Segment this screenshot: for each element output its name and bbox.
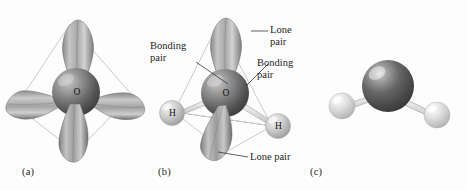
lone-pair-lobe-bottom bbox=[201, 105, 232, 161]
hydrogen-right-label: H bbox=[275, 121, 282, 131]
lone-pair-top-line1: Lone bbox=[270, 24, 292, 35]
panel-a-hybrid-orbitals: O (a) bbox=[0, 0, 155, 190]
oxygen-label: O bbox=[223, 88, 230, 98]
oxygen-label: O bbox=[74, 87, 81, 97]
hydrogen-atom-left: H bbox=[160, 101, 185, 126]
bonding-pair-left-line1: Bonding bbox=[150, 40, 186, 51]
lone-pair-top-line2: pair bbox=[270, 36, 286, 47]
hydrogen-atom-right: H bbox=[266, 114, 291, 139]
bonding-pair-right-label: Bonding pair bbox=[257, 57, 293, 80]
panel-b-graphic: H H O bbox=[150, 0, 325, 190]
oxygen-sphere bbox=[362, 60, 414, 112]
figure-canvas: O (a) bbox=[0, 0, 467, 190]
lone-pair-bottom-label: Lone pair bbox=[250, 151, 291, 163]
caption-c: (c) bbox=[310, 166, 322, 177]
caption-b: (b) bbox=[158, 166, 171, 177]
panel-c-ball-and-stick: (c) bbox=[310, 0, 467, 190]
hydrogen-left-label: H bbox=[169, 108, 176, 118]
panel-b-bonding-lone-pairs: H H O bbox=[150, 0, 325, 190]
panel-c-graphic bbox=[310, 0, 467, 190]
bonding-pair-left-label: Bonding pair bbox=[150, 40, 186, 63]
panel-a-graphic: O bbox=[0, 0, 155, 190]
caption-a: (a) bbox=[22, 166, 34, 177]
hydrogen-sphere-right bbox=[424, 102, 450, 128]
bonding-pair-left-line2: pair bbox=[150, 52, 166, 63]
bonding-pair-right-line2: pair bbox=[257, 69, 273, 80]
lone-pair-top-label: Lone pair bbox=[270, 24, 292, 47]
bonding-pair-right-line1: Bonding bbox=[257, 57, 293, 68]
hydrogen-sphere-left bbox=[329, 93, 355, 119]
